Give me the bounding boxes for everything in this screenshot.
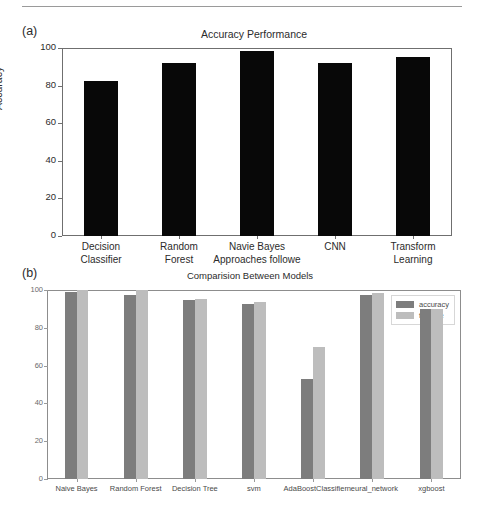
panel-b-x-label: Naive Bayes [47, 484, 106, 493]
panel-a-x-tick-mark [179, 236, 180, 239]
panel-a-y-tick-mark [58, 86, 62, 87]
panel-a-x-tick-mark [413, 236, 414, 239]
panel-b-y-tick-label: 40 [19, 398, 43, 407]
panel-b-bar-f1score [313, 347, 325, 479]
panel-b-y-tick-mark [44, 479, 48, 480]
panel-b-x-tick-mark [372, 479, 373, 482]
panel-b-x-tick-mark [313, 479, 314, 482]
panel-b-y-tick-mark [44, 441, 48, 442]
panel-b-title: Comparision Between Models [40, 270, 460, 281]
panel-b-y-tick-mark [44, 366, 48, 367]
panel-a-y-tick-mark [58, 236, 62, 237]
panel-a-x-tick-mark [335, 236, 336, 239]
panel-b-x-tick-mark [195, 479, 196, 482]
panel-b-x-label: Decision Tree [165, 484, 224, 493]
panel-b-bar-f1score [254, 302, 266, 479]
panel-b-y-tick-mark [44, 290, 48, 291]
panel-a-y-tick-label: 100 [24, 41, 56, 52]
panel-b: (b) Comparision Between Models accuracyf… [0, 258, 478, 517]
panel-a-y-tick-mark [58, 123, 62, 124]
panel-b-bar-accuracy [301, 379, 313, 479]
panel-b-x-label: neural_network [343, 484, 402, 493]
panel-a-y-tick-label: 40 [24, 154, 56, 165]
panel-a-title: Accuracy Performance [54, 28, 454, 40]
panel-a-y-tick-label: 60 [24, 116, 56, 127]
panel-b-x-label: Random Forest [106, 484, 165, 493]
panel-a-y-tick-label: 0 [24, 229, 56, 240]
panel-b-y-tick-mark [44, 403, 48, 404]
panel-b-bar-f1score [195, 299, 207, 479]
panel-a-y-tick-label: 20 [24, 191, 56, 202]
panel-b-x-tick-mark [77, 479, 78, 482]
panel-b-x-tick-mark [431, 479, 432, 482]
panel-a-tag: (a) [22, 24, 37, 38]
panel-b-bar-f1score [136, 290, 148, 479]
panel-b-bar-accuracy [420, 309, 432, 479]
panel-b-bar-accuracy [360, 295, 372, 479]
panel-a-bar [396, 57, 430, 236]
panel-a-bar [84, 81, 118, 236]
legend-swatch-icon [396, 301, 414, 308]
panel-a-y-axis-label: Accuracy [0, 67, 4, 110]
panel-b-y-tick-label: 80 [19, 323, 43, 332]
panel-b-bar-f1score [77, 290, 89, 479]
panel-b-tag: (b) [22, 266, 37, 280]
panel-a-y-tick-mark [58, 161, 62, 162]
panel-a-y-tick-mark [58, 48, 62, 49]
panel-a-bar [318, 63, 352, 236]
legend-swatch-icon [396, 312, 414, 319]
panel-b-x-label: AdaBoostClassifier [284, 484, 343, 493]
panel-b-y-tick-label: 60 [19, 361, 43, 370]
panel-b-bar-accuracy [183, 300, 195, 479]
panel-a-y-tick-label: 80 [24, 79, 56, 90]
panel-a: (a) Accuracy Performance Accuracy 020406… [0, 18, 478, 258]
panel-b-x-label: xgboost [402, 484, 461, 493]
panel-a-y-tick-mark [58, 198, 62, 199]
panel-a-x-tick-mark [257, 236, 258, 239]
panel-b-x-tick-mark [254, 479, 255, 482]
panel-b-y-tick-label: 100 [19, 285, 43, 294]
panel-b-y-tick-label: 20 [19, 436, 43, 445]
panel-b-y-tick-mark [44, 328, 48, 329]
panel-a-x-tick-mark [101, 236, 102, 239]
panel-a-x-label-line: Transform [360, 241, 466, 254]
panel-b-x-tick-mark [136, 479, 137, 482]
header-divider [22, 6, 462, 7]
panel-b-bar-f1score [431, 309, 443, 479]
panel-a-bar [240, 51, 274, 236]
panel-b-bar-accuracy [65, 292, 77, 479]
figure-page: (a) Accuracy Performance Accuracy 020406… [0, 0, 478, 517]
panel-b-bar-accuracy [242, 304, 254, 479]
panel-a-bar [162, 63, 196, 236]
panel-b-bar-f1score [372, 293, 384, 479]
panel-b-bar-accuracy [124, 295, 136, 479]
panel-b-x-label: svm [224, 484, 283, 493]
panel-b-y-tick-label: 0 [19, 474, 43, 483]
